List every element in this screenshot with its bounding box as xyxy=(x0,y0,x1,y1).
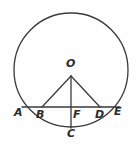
vertex-label-d: D xyxy=(95,109,104,120)
vertex-label-b: B xyxy=(36,109,44,120)
vertex-label-c: C xyxy=(67,128,75,139)
geometry-figure: A B O F C D E xyxy=(0,0,139,149)
segment-OD xyxy=(71,76,100,107)
vertex-label-a: A xyxy=(14,107,23,118)
vertex-label-e: E xyxy=(114,106,122,117)
vertex-label-f: F xyxy=(73,109,81,120)
vertex-label-o: O xyxy=(66,58,75,69)
segment-OB xyxy=(42,76,71,107)
